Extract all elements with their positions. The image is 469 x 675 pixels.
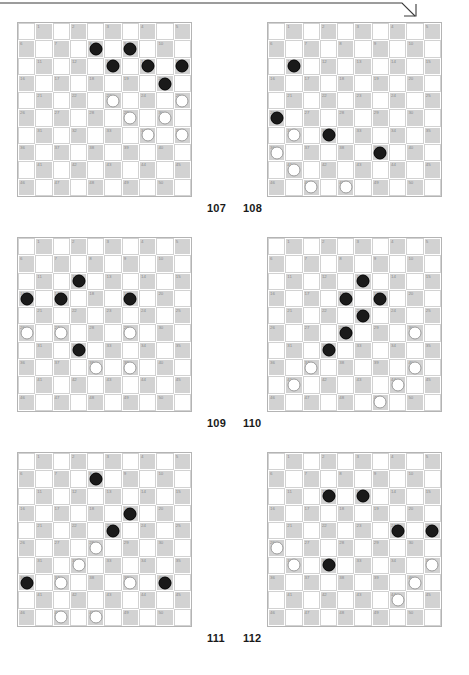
black-piece[interactable] xyxy=(374,146,387,159)
square-46[interactable]: 46 xyxy=(268,394,285,411)
square-2[interactable]: 2 xyxy=(70,238,87,255)
black-piece[interactable] xyxy=(270,112,283,125)
square-8[interactable]: 8 xyxy=(87,470,104,487)
square-50[interactable]: 50 xyxy=(156,394,173,411)
black-piece[interactable] xyxy=(322,490,335,503)
white-piece[interactable] xyxy=(270,542,283,555)
square-48[interactable]: 48 xyxy=(87,609,104,626)
square-50[interactable]: 50 xyxy=(156,179,173,196)
square-17[interactable]: 17 xyxy=(303,505,320,522)
square-46[interactable]: 46 xyxy=(18,179,35,196)
square-22[interactable]: 22 xyxy=(320,307,337,324)
square-29[interactable]: 29 xyxy=(122,109,139,126)
square-26[interactable]: 26 xyxy=(18,539,35,556)
white-piece[interactable] xyxy=(55,327,68,340)
square-3[interactable]: 3 xyxy=(354,23,371,40)
square-29[interactable]: 29 xyxy=(372,539,389,556)
black-piece[interactable] xyxy=(107,524,120,537)
square-23[interactable]: 23 xyxy=(354,522,371,539)
square-42[interactable]: 42 xyxy=(70,376,87,393)
square-42[interactable]: 42 xyxy=(320,376,337,393)
square-41[interactable]: 41 xyxy=(285,161,302,178)
black-piece[interactable] xyxy=(391,524,404,537)
square-22[interactable]: 22 xyxy=(320,92,337,109)
square-30[interactable]: 30 xyxy=(156,109,173,126)
square-9[interactable]: 9 xyxy=(372,470,389,487)
square-14[interactable]: 14 xyxy=(139,488,156,505)
square-46[interactable]: 46 xyxy=(18,394,35,411)
square-31[interactable]: 31 xyxy=(35,127,52,144)
square-42[interactable]: 42 xyxy=(320,591,337,608)
square-3[interactable]: 3 xyxy=(354,238,371,255)
square-31[interactable]: 31 xyxy=(285,557,302,574)
square-8[interactable]: 8 xyxy=(87,255,104,272)
square-47[interactable]: 47 xyxy=(303,394,320,411)
square-22[interactable]: 22 xyxy=(70,522,87,539)
white-piece[interactable] xyxy=(339,181,352,194)
square-30[interactable]: 30 xyxy=(406,324,423,341)
square-39[interactable]: 39 xyxy=(122,574,139,591)
square-8[interactable]: 8 xyxy=(87,40,104,57)
square-43[interactable]: 43 xyxy=(354,591,371,608)
square-43[interactable]: 43 xyxy=(354,376,371,393)
square-9[interactable]: 9 xyxy=(122,40,139,57)
square-43[interactable]: 43 xyxy=(104,161,121,178)
square-42[interactable]: 42 xyxy=(70,591,87,608)
square-45[interactable]: 45 xyxy=(424,591,441,608)
white-piece[interactable] xyxy=(374,396,387,409)
black-piece[interactable] xyxy=(20,292,33,305)
white-piece[interactable] xyxy=(124,112,137,125)
square-7[interactable]: 7 xyxy=(303,255,320,272)
square-35[interactable]: 35 xyxy=(424,557,441,574)
black-piece[interactable] xyxy=(159,77,172,90)
square-5[interactable]: 5 xyxy=(174,453,191,470)
square-43[interactable]: 43 xyxy=(104,376,121,393)
square-28[interactable]: 28 xyxy=(87,324,104,341)
square-43[interactable]: 43 xyxy=(104,591,121,608)
square-35[interactable]: 35 xyxy=(424,342,441,359)
square-31[interactable]: 31 xyxy=(35,557,52,574)
square-37[interactable]: 37 xyxy=(53,359,70,376)
square-24[interactable]: 24 xyxy=(139,307,156,324)
white-piece[interactable] xyxy=(124,327,137,340)
black-piece[interactable] xyxy=(20,576,33,589)
black-piece[interactable] xyxy=(176,60,189,73)
black-piece[interactable] xyxy=(124,507,137,520)
square-8[interactable]: 8 xyxy=(337,255,354,272)
white-piece[interactable] xyxy=(159,112,172,125)
square-48[interactable]: 48 xyxy=(337,394,354,411)
square-5[interactable]: 5 xyxy=(424,238,441,255)
square-9[interactable]: 9 xyxy=(372,255,389,272)
square-21[interactable]: 21 xyxy=(35,92,52,109)
square-28[interactable]: 28 xyxy=(87,109,104,126)
square-15[interactable]: 15 xyxy=(174,58,191,75)
square-25[interactable]: 25 xyxy=(424,92,441,109)
square-34[interactable]: 34 xyxy=(139,127,156,144)
square-26[interactable]: 26 xyxy=(268,109,285,126)
square-10[interactable]: 10 xyxy=(406,255,423,272)
square-13[interactable]: 13 xyxy=(104,488,121,505)
square-39[interactable]: 39 xyxy=(372,574,389,591)
white-piece[interactable] xyxy=(72,559,85,572)
square-44[interactable]: 44 xyxy=(389,591,406,608)
square-44[interactable]: 44 xyxy=(389,376,406,393)
square-39[interactable]: 39 xyxy=(372,144,389,161)
square-50[interactable]: 50 xyxy=(406,179,423,196)
square-34[interactable]: 34 xyxy=(139,557,156,574)
square-10[interactable]: 10 xyxy=(156,40,173,57)
square-11[interactable]: 11 xyxy=(35,58,52,75)
square-6[interactable]: 6 xyxy=(268,470,285,487)
square-38[interactable]: 38 xyxy=(337,574,354,591)
square-34[interactable]: 34 xyxy=(139,342,156,359)
square-11[interactable]: 11 xyxy=(285,273,302,290)
square-27[interactable]: 27 xyxy=(303,324,320,341)
square-15[interactable]: 15 xyxy=(174,273,191,290)
white-piece[interactable] xyxy=(287,164,300,177)
square-16[interactable]: 16 xyxy=(18,290,35,307)
square-23[interactable]: 23 xyxy=(354,92,371,109)
square-23[interactable]: 23 xyxy=(104,92,121,109)
square-39[interactable]: 39 xyxy=(122,144,139,161)
square-2[interactable]: 2 xyxy=(320,238,337,255)
white-piece[interactable] xyxy=(89,611,102,624)
square-1[interactable]: 1 xyxy=(35,238,52,255)
